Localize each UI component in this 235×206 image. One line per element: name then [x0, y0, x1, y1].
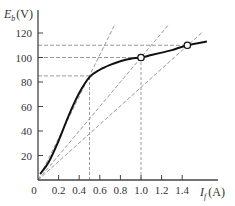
x-tick-label: 0.6: [93, 184, 107, 196]
axes: [38, 10, 218, 180]
x-tick-label: 0: [31, 184, 37, 196]
x-tick-label: 0.2: [52, 184, 66, 196]
x-tick-label: 1.0: [134, 184, 148, 196]
y-axis-label: Eb(V): [3, 7, 33, 23]
y-tick-label: 100: [16, 52, 33, 64]
magnetization-curve: [40, 42, 207, 174]
y-tick-label: 80: [21, 76, 33, 88]
field-resistance-line-1: [38, 26, 114, 180]
x-tick-label: 0.4: [72, 184, 86, 196]
y-tick-label: 60: [21, 101, 33, 113]
field-resistance-line-3: [38, 32, 203, 180]
x-tick-label: 0.8: [114, 184, 128, 196]
x-axis-label: If(A): [199, 185, 225, 201]
y-tick-label: 120: [16, 27, 33, 39]
x-tick-label: 1.2: [155, 184, 169, 196]
tick-marks: [38, 33, 182, 180]
x-tick-label: 1.4: [175, 184, 189, 196]
operating-point-marker: [138, 54, 144, 60]
y-tick-label: 20: [21, 150, 33, 162]
y-tick-label: 40: [21, 125, 33, 137]
operating-point-marker: [184, 42, 190, 48]
magnetization-chart: 00.20.40.60.81.01.21.420406080100120 Eb(…: [0, 0, 235, 206]
